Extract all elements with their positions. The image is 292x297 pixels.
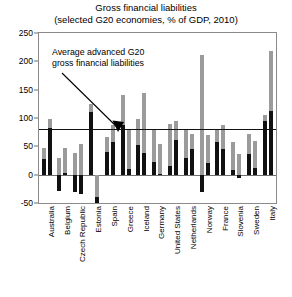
bar-segment-net [221, 149, 225, 175]
bar-segment-gross [136, 119, 140, 145]
bar-segment-net [231, 170, 235, 175]
x-tick-label: Estonia [95, 206, 103, 233]
bar-segment-net [42, 159, 46, 175]
bar-segment-net [152, 162, 156, 174]
x-tick-label: France [222, 206, 230, 231]
bar-segment-gross [174, 121, 178, 140]
bar-segment-net [63, 173, 67, 175]
x-tick-label: Iceland [143, 206, 151, 232]
bar [263, 33, 267, 203]
bar-segment-net [168, 166, 172, 175]
bar [253, 33, 257, 203]
annotation-line-1: Average advanced G20 [52, 47, 144, 58]
x-tick-label: Czech Republic [79, 206, 87, 262]
bar-segment-net [206, 163, 210, 174]
chart-title: Gross financial liabilities [0, 2, 292, 14]
x-tick-label: Sweden [253, 206, 261, 235]
bar-segment-gross [215, 130, 219, 141]
bar-segment-net [127, 169, 131, 175]
bar [152, 33, 156, 203]
bar-segment-gross [200, 55, 204, 175]
x-axis-labels: AustraliaBelgiumCzech RepublicEstoniaSpa… [38, 206, 277, 296]
bar-group [213, 33, 229, 203]
bar-segment-net [89, 112, 93, 174]
bar-segment-gross [42, 148, 46, 159]
bar-segment-net [48, 128, 52, 174]
x-tick-label: Netherlands [190, 206, 198, 249]
x-tick-label: Belgium [64, 206, 72, 235]
x-tick-label: United States [174, 206, 182, 254]
bar-segment-gross [152, 130, 156, 162]
bar-group [150, 33, 166, 203]
bar-segment-gross [269, 51, 273, 111]
average-reference-line [39, 129, 276, 130]
bar [221, 33, 225, 203]
bar-segment-gross [89, 104, 93, 112]
bar-segment-gross [190, 134, 194, 149]
bar [190, 33, 194, 203]
annotation-line-2: gross financial liabilities [52, 58, 144, 69]
bar-segment-net [158, 174, 162, 175]
bar [215, 33, 219, 203]
bar-segment-net [253, 168, 257, 175]
bar-segment-gross [111, 125, 115, 143]
bar-segment-gross [231, 142, 235, 170]
bar-segment-net [174, 140, 178, 175]
bar-segment-net [136, 145, 140, 174]
y-tick-label: 150 [19, 85, 33, 94]
bar-segment-net [142, 153, 146, 175]
bar-segment-gross [142, 93, 146, 154]
bar-segment-gross [48, 119, 52, 129]
bar [269, 33, 273, 203]
bar-segment-gross [127, 130, 131, 169]
y-tick-label: 0 [28, 170, 33, 179]
bar-segment-net [247, 154, 251, 174]
x-tick-label: Australia [48, 206, 56, 237]
bar-group [229, 33, 245, 203]
bar-segment-gross [184, 130, 188, 157]
y-tick-label: -50 [21, 199, 33, 208]
bar-group [197, 33, 213, 203]
bar [184, 33, 188, 203]
x-tick-label: Germany [158, 206, 166, 239]
bar-segment-gross [105, 137, 109, 152]
bar-segment-gross [247, 134, 251, 154]
bar [158, 33, 162, 203]
bar-segment-net [190, 149, 194, 175]
bar [174, 33, 178, 203]
bar-segment-net [184, 158, 188, 175]
bar-segment-gross [237, 154, 241, 175]
y-axis: 250200150100500-50 [0, 32, 38, 204]
x-tick-label: Norway [206, 206, 214, 233]
bar [206, 33, 210, 203]
bar [42, 33, 46, 203]
bar-segment-net [237, 175, 241, 178]
bar [247, 33, 251, 203]
x-tick-label: Slovenia [237, 206, 245, 237]
y-tick-label: 100 [19, 114, 33, 123]
bar [168, 33, 172, 203]
bar-segment-net [105, 152, 109, 175]
y-tick-label: 200 [19, 57, 33, 66]
bar-group [181, 33, 197, 203]
bar [200, 33, 204, 203]
bar-segment-net [269, 111, 273, 174]
bar-segment-gross [206, 135, 210, 163]
bar-segment-gross [121, 95, 125, 124]
bar-group [260, 33, 276, 203]
chart-title-block: Gross financial liabilities (selected G2… [0, 2, 292, 25]
bar-segment-gross [158, 144, 162, 174]
bar-segment-gross [95, 175, 99, 198]
x-tick-label: Spain [111, 206, 119, 226]
bar-segment-net [121, 125, 125, 175]
bar [231, 33, 235, 203]
bar-segment-gross [63, 148, 67, 173]
bar-segment-gross [79, 144, 83, 175]
y-tick-label: 50 [24, 142, 33, 151]
bar-segment-net [111, 142, 115, 174]
bar-segment-gross [253, 141, 257, 168]
bar-segment-gross [73, 153, 77, 175]
bar-segment-net [215, 142, 219, 175]
bar-group [165, 33, 181, 203]
bar-segment-net [73, 175, 77, 193]
